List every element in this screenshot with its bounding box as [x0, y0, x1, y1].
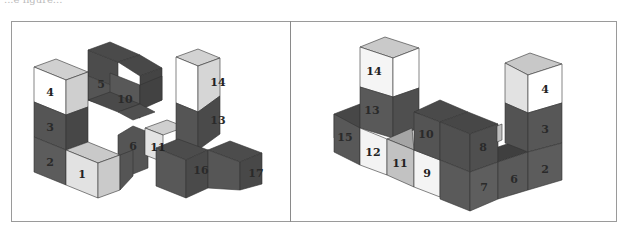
- cube-label-3: 3: [541, 123, 549, 136]
- cube-label-5: 5: [97, 78, 105, 91]
- cube-label-16: 16: [193, 164, 209, 177]
- cube-label-4: 4: [46, 86, 54, 99]
- caption-fragment: ...e figure...: [4, 0, 62, 5]
- left-view-panel: 4 3 2 1 5 10 6 11 14 13 16 17: [12, 22, 290, 221]
- cube-label-14: 14: [366, 65, 382, 78]
- cube-label-15: 15: [337, 131, 352, 144]
- cube-label-3: 3: [46, 121, 54, 134]
- cube-label-2: 2: [541, 163, 549, 176]
- right-view-panel: 14 13 15 12 11 9 10 8 7 6 2 3 4: [291, 22, 617, 221]
- cube-label-2: 2: [46, 156, 54, 169]
- cube-label-9: 9: [423, 167, 431, 180]
- cube-label-7: 7: [480, 181, 488, 194]
- left-isometric-drawing: 4 3 2 1 5 10 6 11 14 13 16 17: [12, 22, 290, 221]
- right-isometric-drawing: 14 13 15 12 11 9 10 8 7 6 2 3 4: [291, 22, 617, 221]
- cube-label-11: 11: [150, 141, 165, 154]
- cube-label-1: 1: [78, 168, 86, 181]
- cube-label-12: 12: [365, 146, 380, 159]
- cube-label-13: 13: [364, 104, 379, 117]
- cube-label-6: 6: [510, 173, 518, 186]
- cube-label-10: 10: [117, 93, 133, 106]
- cube-label-4: 4: [541, 83, 549, 96]
- cube-label-8: 8: [479, 141, 487, 154]
- cube-label-17: 17: [248, 167, 263, 180]
- cube-label-13: 13: [210, 114, 225, 127]
- cube-label-14: 14: [210, 76, 226, 89]
- cube-label-11: 11: [392, 157, 407, 170]
- cube-label-6: 6: [129, 140, 137, 153]
- cube-label-10: 10: [418, 128, 434, 141]
